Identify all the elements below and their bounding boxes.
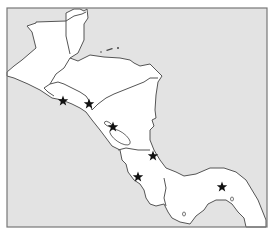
island-dot-2 — [117, 47, 119, 49]
island-panama — [183, 212, 186, 216]
lake-panama — [231, 197, 234, 201]
island-dot — [100, 51, 102, 53]
central-america-map — [0, 0, 274, 235]
